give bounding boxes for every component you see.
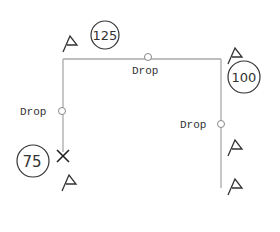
badge-75[interactable]: 75 [17,145,49,177]
flag-icon[interactable] [62,175,76,191]
badge-value: 75 [22,153,41,171]
badge-value: 125 [93,28,118,43]
drop-right[interactable]: Drop [180,119,225,131]
drop-left[interactable]: Drop [20,106,66,118]
flag-icon[interactable] [228,179,242,195]
flag-icon[interactable] [228,140,242,156]
drop-top[interactable]: Drop [132,54,158,78]
drop-label: Drop [20,106,46,118]
flag-icon[interactable] [63,36,77,52]
badge-125[interactable]: 125 [91,21,119,49]
drop-label: Drop [132,65,158,77]
badge-100[interactable]: 100 [228,61,260,93]
route-diagram: Drop Drop Drop 125 100 75 [0,0,280,232]
drop-circle-icon [218,121,225,128]
drop-circle-icon [145,54,152,61]
flag-icons [62,36,242,195]
drop-circle-icon [59,108,66,115]
badge-value: 100 [232,70,257,85]
drop-label: Drop [180,119,206,131]
